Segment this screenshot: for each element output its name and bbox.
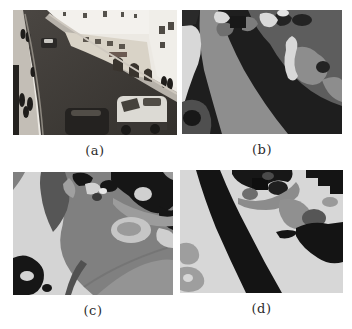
panel-d-label: (d): [180, 301, 343, 316]
panel-b-image: [182, 10, 342, 134]
seg-d-light-island: [183, 274, 193, 282]
seg-c-light-notch: [134, 187, 152, 201]
panel-d: [180, 170, 343, 293]
seg-c-ring-inner: [117, 222, 141, 236]
panel-c-label: (c): [13, 303, 173, 318]
seg-b-bottomleft-blob: [183, 110, 201, 126]
panel-a: [13, 10, 177, 135]
seg-c-light-island: [20, 271, 34, 281]
photo-dark-car: [65, 108, 109, 135]
panel-c-image: [13, 172, 173, 295]
seg-c-small-black-blob: [42, 284, 52, 292]
panel-b-label: (b): [182, 142, 342, 157]
seg-d-corner-gray-patch: [322, 197, 338, 207]
figure-grid: (a) (b) (c) (d): [0, 0, 352, 329]
photo-white-van: [117, 96, 167, 135]
panel-a-label: (a): [13, 143, 177, 158]
panel-a-image: [13, 10, 177, 135]
panel-c: [13, 172, 173, 295]
panel-b: [182, 10, 342, 134]
panel-d-image: [180, 170, 343, 293]
photo-left-building-edge: [13, 65, 19, 135]
photo-small-car: [41, 38, 57, 48]
